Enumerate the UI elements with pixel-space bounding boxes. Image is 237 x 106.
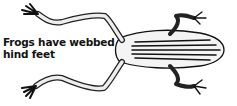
caption-line-1: Frogs have webbed: [3, 36, 115, 48]
caption-line-2: hind feet: [3, 48, 115, 60]
caption: Frogs have webbed hind feet: [3, 36, 115, 60]
frog-illustration-figure: Frogs have webbed hind feet: [0, 0, 237, 106]
